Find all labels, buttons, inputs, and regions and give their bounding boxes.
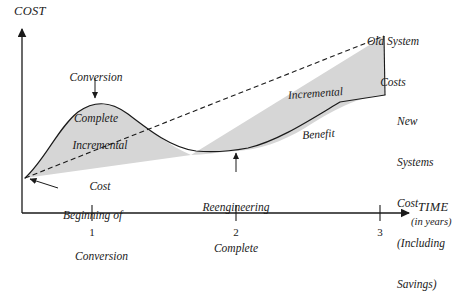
label-new-systems-cost: New Systems Cost (Including Savings)	[397, 88, 462, 295]
reengineering-complete-line-1: Reengineering	[190, 201, 282, 215]
leader-beginning-of-conversion	[30, 179, 58, 188]
conversion-complete-line-1: Conversion	[60, 71, 132, 85]
label-incremental-benefit: Incremental Benefit	[271, 57, 362, 171]
annotation-beginning-of-conversion: Beginning of Conversion	[63, 182, 155, 291]
incremental-benefit-line-2: Benefit	[276, 125, 361, 144]
annotation-reengineering-complete: Reengineering Complete	[190, 174, 282, 283]
new-systems-cost-line-3: Cost	[397, 197, 462, 211]
new-systems-cost-line-2: Systems	[397, 156, 462, 170]
new-systems-cost-line-5: Savings)	[397, 278, 462, 292]
new-systems-cost-line-4: (Including	[397, 237, 462, 251]
incremental-benefit-line-1: Incremental	[273, 84, 358, 103]
beginning-of-conversion-line-1: Beginning of	[63, 209, 155, 223]
reengineering-complete-line-2: Complete	[190, 242, 282, 256]
incremental-cost-line-1: Incremental	[60, 139, 140, 153]
old-system-costs-line-1: Old System	[352, 35, 434, 49]
new-systems-cost-line-1: New	[397, 115, 462, 129]
y-axis-label: COST	[14, 4, 46, 19]
x-tick-label-3: 3	[373, 226, 387, 238]
beginning-of-conversion-line-2: Conversion	[63, 250, 155, 264]
